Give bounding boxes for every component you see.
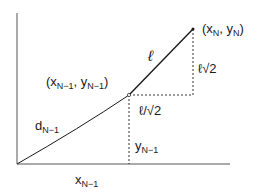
label-vertical-leg: ℓ√2 [198,61,217,76]
label-point-end: (xN, yN) [202,21,244,38]
point-end-marker [192,28,195,31]
label-x-projection: xN−1 [75,172,98,189]
label-y-projection: yN−1 [135,138,158,155]
label-point-mid: (xN−1, yN−1) [46,74,108,91]
diagram-canvas: (xN, yN) (xN−1, yN−1) ℓ ℓ√2 ℓ/√2 dN−1 yN… [0,0,266,195]
label-distance: dN−1 [35,118,59,135]
label-horizontal-leg: ℓ/√2 [139,103,161,118]
label-segment: ℓ [147,47,154,64]
distance-curve [17,95,129,164]
segment-line [129,29,193,95]
point-mid-marker [127,93,130,96]
